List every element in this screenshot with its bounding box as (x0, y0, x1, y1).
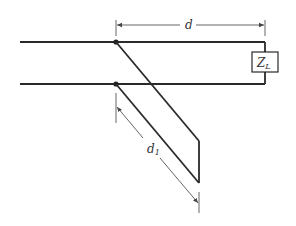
dimension-d1-arrow-bottom (160, 158, 198, 203)
transmission-line-diagram: ZL d d1 (0, 0, 296, 226)
dimension-d-label: d (185, 18, 193, 32)
stub-wire-outer (116, 42, 199, 141)
dimension-d1-label: d1 (147, 142, 160, 157)
stub-wire-inner (116, 84, 199, 183)
